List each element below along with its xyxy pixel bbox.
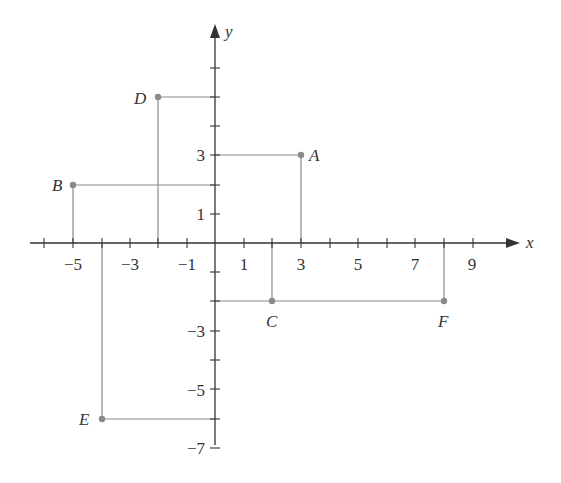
- coordinate-plane: y x −5 −3 −1 1 3 5 7 9 3 1 −3 −5 −7 A B …: [0, 0, 561, 483]
- x-tick-label: −5: [64, 255, 82, 274]
- y-tick-labels: 3 1 −3 −5 −7: [187, 146, 206, 458]
- point-label-C: C: [266, 312, 278, 331]
- x-axis-label: x: [525, 233, 534, 252]
- y-tick-label: −3: [187, 322, 205, 341]
- point-D: [155, 94, 161, 100]
- guide-B: [73, 185, 215, 243]
- x-tick-label: −1: [178, 255, 196, 274]
- point-labels: A B C D E F: [52, 89, 449, 429]
- point-label-B: B: [52, 176, 63, 195]
- point-label-A: A: [308, 146, 320, 165]
- point-label-D: D: [133, 89, 147, 108]
- y-tick-label: 1: [197, 205, 206, 224]
- x-tick-label: 1: [240, 255, 249, 274]
- y-axis-label: y: [223, 22, 233, 41]
- guide-D: [158, 97, 215, 243]
- point-A: [298, 152, 304, 158]
- y-axis-arrow-icon: [210, 24, 220, 38]
- guide-A: [215, 155, 301, 243]
- x-tick-label: 5: [354, 255, 363, 274]
- x-axis-arrow-icon: [506, 238, 520, 248]
- point-C: [269, 298, 275, 304]
- y-tick-label: −5: [187, 381, 205, 400]
- point-F: [441, 298, 447, 304]
- y-tick-label: −7: [187, 439, 206, 458]
- x-tick-label: 3: [297, 255, 306, 274]
- x-tick-label: 9: [468, 255, 477, 274]
- point-label-E: E: [78, 410, 90, 429]
- x-tick-labels: −5 −3 −1 1 3 5 7 9: [64, 255, 476, 274]
- point-label-F: F: [437, 312, 449, 331]
- axes: [30, 24, 520, 445]
- y-tick-label: 3: [197, 146, 206, 165]
- x-tick-label: 7: [411, 255, 420, 274]
- point-B: [70, 182, 76, 188]
- x-tick-label: −3: [121, 255, 139, 274]
- point-E: [99, 416, 105, 422]
